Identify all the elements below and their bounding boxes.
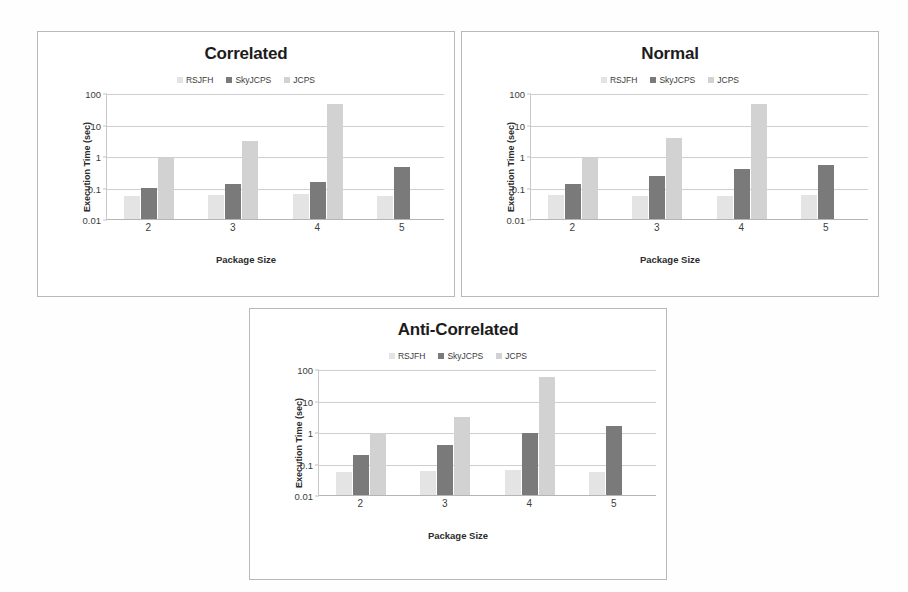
chart-legend: RSJFHSkyJCPSJCPS — [250, 351, 666, 361]
x-tick-label: 2 — [530, 222, 615, 233]
bar-rsjfh[interactable] — [208, 195, 224, 220]
y-axis-ticks: 1001010.10.01 — [484, 94, 528, 220]
y-tick-label: 10 — [90, 120, 101, 131]
bar-skyjcps[interactable] — [565, 184, 581, 219]
bar-group — [319, 370, 403, 495]
bar-rsjfh[interactable] — [336, 472, 352, 495]
bar-rsjfh[interactable] — [505, 470, 521, 495]
y-tick-label: 10 — [514, 120, 525, 131]
legend-label: SkyJCPS — [447, 351, 483, 361]
x-axis-label: Package Size — [250, 530, 666, 541]
bar-jcps[interactable] — [666, 138, 682, 219]
bar-rsjfh[interactable] — [632, 196, 648, 219]
y-tick-label: 100 — [85, 89, 101, 100]
legend-label: JCPS — [505, 351, 527, 361]
bar-groups — [319, 370, 656, 495]
y-tick-label: 10 — [302, 396, 313, 407]
bar-jcps[interactable] — [242, 141, 258, 219]
plot-area: Execution Time (sec) 1001010.10.01 2345 — [38, 94, 454, 240]
bar-skyjcps[interactable] — [310, 182, 326, 219]
bar-rsjfh[interactable] — [717, 196, 733, 219]
bar-skyjcps[interactable] — [437, 445, 453, 495]
legend-swatch-icon — [650, 77, 656, 83]
x-tick-label: 2 — [106, 222, 191, 233]
legend-entry[interactable]: SkyJCPS — [650, 75, 695, 85]
legend-entry[interactable]: RSJFH — [601, 75, 637, 85]
bar-jcps[interactable] — [582, 158, 598, 219]
legend-label: JCPS — [293, 75, 315, 85]
y-tick-label: 0.01 — [295, 491, 314, 502]
legend-label: RSJFH — [610, 75, 637, 85]
legend-swatch-icon — [438, 353, 444, 359]
chart-title: Normal — [462, 44, 878, 64]
chart-panel-normal: Normal RSJFHSkyJCPSJCPS Execution Time (… — [461, 31, 879, 297]
y-tick-label: 0.01 — [507, 215, 526, 226]
bar-group — [360, 94, 444, 219]
legend-entry[interactable]: RSJFH — [389, 351, 425, 361]
bar-jcps[interactable] — [370, 433, 386, 495]
y-axis-ticks: 1001010.10.01 — [60, 94, 104, 220]
legend-swatch-icon — [177, 77, 183, 83]
legend-label: SkyJCPS — [235, 75, 271, 85]
legend-entry[interactable]: JCPS — [496, 351, 527, 361]
bar-rsjfh[interactable] — [377, 196, 393, 219]
bar-skyjcps[interactable] — [734, 169, 750, 219]
bar-skyjcps[interactable] — [522, 433, 538, 495]
bar-rsjfh[interactable] — [420, 471, 436, 496]
x-tick-label: 3 — [403, 498, 488, 509]
legend-entry[interactable]: SkyJCPS — [438, 351, 483, 361]
bar-jcps[interactable] — [454, 417, 470, 495]
legend-entry[interactable]: RSJFH — [177, 75, 213, 85]
legend-label: RSJFH — [186, 75, 213, 85]
chart-legend: RSJFHSkyJCPSJCPS — [462, 75, 878, 85]
bar-skyjcps[interactable] — [141, 188, 157, 220]
x-axis-ticks: 2345 — [530, 222, 868, 233]
y-tick-label: 0.01 — [83, 215, 102, 226]
x-axis-label: Package Size — [462, 254, 878, 265]
x-tick-label: 4 — [699, 222, 784, 233]
x-tick-label: 4 — [487, 498, 572, 509]
bar-rsjfh[interactable] — [124, 196, 140, 219]
bar-rsjfh[interactable] — [801, 195, 817, 219]
bar-skyjcps[interactable] — [225, 184, 241, 219]
y-tick-label: 1 — [308, 428, 313, 439]
legend-swatch-icon — [389, 353, 395, 359]
legend-entry[interactable]: JCPS — [708, 75, 739, 85]
x-axis-line — [107, 219, 444, 220]
bar-skyjcps[interactable] — [353, 455, 369, 495]
bar-rsjfh[interactable] — [589, 472, 605, 495]
bar-rsjfh[interactable] — [293, 194, 309, 219]
bar-group — [784, 94, 868, 219]
bar-jcps[interactable] — [327, 104, 343, 219]
bar-skyjcps[interactable] — [394, 167, 410, 219]
x-axis-line — [319, 495, 656, 496]
plot-grid — [530, 94, 868, 220]
bar-group — [276, 94, 360, 219]
x-tick-label: 3 — [191, 222, 276, 233]
bar-groups — [107, 94, 444, 219]
y-tick-label: 0.1 — [88, 183, 101, 194]
chart-title: Correlated — [38, 44, 454, 64]
bar-group — [531, 94, 615, 219]
x-tick-label: 5 — [360, 222, 445, 233]
y-tick-label: 1 — [520, 152, 525, 163]
legend-swatch-icon — [708, 77, 714, 83]
bar-jcps[interactable] — [539, 377, 555, 495]
bar-skyjcps[interactable] — [649, 176, 665, 219]
bar-jcps[interactable] — [158, 158, 174, 219]
bar-skyjcps[interactable] — [818, 165, 834, 219]
legend-entry[interactable]: JCPS — [284, 75, 315, 85]
x-tick-label: 2 — [318, 498, 403, 509]
bar-jcps[interactable] — [751, 104, 767, 219]
y-axis-ticks: 1001010.10.01 — [272, 370, 316, 496]
bar-skyjcps[interactable] — [606, 426, 622, 495]
legend-entry[interactable]: SkyJCPS — [226, 75, 271, 85]
bar-group — [615, 94, 699, 219]
bar-rsjfh[interactable] — [548, 195, 564, 220]
y-tick-label: 0.1 — [512, 183, 525, 194]
y-tick-label: 100 — [509, 89, 525, 100]
legend-label: SkyJCPS — [659, 75, 695, 85]
legend-swatch-icon — [284, 77, 290, 83]
bar-groups — [531, 94, 868, 219]
chart-panel-anti-correlated: Anti-Correlated RSJFHSkyJCPSJCPS Executi… — [249, 308, 667, 580]
